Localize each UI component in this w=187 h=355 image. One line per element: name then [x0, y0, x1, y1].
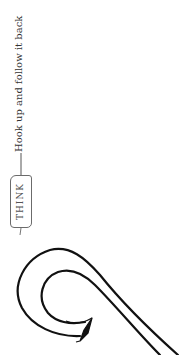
arrow-shaft [66, 318, 92, 323]
hook-figure [0, 0, 187, 355]
hook-inner-curve [42, 271, 160, 355]
